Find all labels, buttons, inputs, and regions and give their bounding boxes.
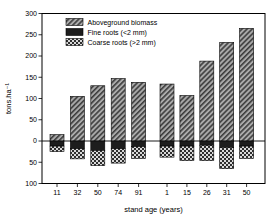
- x-tick-label: 1: [165, 189, 169, 196]
- x-axis-title: stand age (years): [124, 205, 183, 214]
- legend-label-coarse-roots: Coarse roots (>2 mm): [88, 39, 156, 47]
- legend-label-fine-roots: Fine roots (<2 mm): [88, 29, 147, 37]
- bar-segment-aboveground: [200, 61, 214, 141]
- legend-label-aboveground-biomass: Aboveground biomass: [88, 19, 158, 27]
- bar-segment-coarse-roots: [240, 146, 254, 158]
- bar-segment-fine-roots: [111, 141, 125, 149]
- bar-segment-fine-roots: [50, 141, 64, 146]
- bar-segment-coarse-roots: [50, 146, 64, 152]
- bar-segment-fine-roots: [160, 141, 174, 146]
- bar-segment-aboveground: [50, 135, 64, 141]
- y-tick-label: 50: [29, 159, 37, 166]
- bar-segment-fine-roots: [180, 141, 194, 146]
- x-tick-label: 50: [243, 189, 251, 196]
- y-tick-label: 100: [25, 95, 37, 102]
- x-tick-label: 91: [135, 189, 143, 196]
- x-tick-label: 11: [53, 189, 60, 196]
- y-tick-label: 50: [29, 116, 37, 123]
- bar-segment-coarse-roots: [160, 146, 174, 157]
- bar-segment-aboveground: [220, 42, 234, 141]
- bar-segment-fine-roots: [240, 141, 254, 146]
- bar-segment-fine-roots: [70, 141, 84, 149]
- bar-segment-fine-roots: [220, 141, 234, 147]
- bar-segment-coarse-roots: [200, 145, 214, 160]
- legend-swatch-fine-roots: [66, 29, 83, 36]
- y-tick-label: 0: [33, 137, 37, 144]
- bar-segment-aboveground: [111, 79, 125, 141]
- bar-segment-fine-roots: [132, 141, 146, 147]
- x-tick-label: 31: [223, 189, 231, 196]
- legend: Aboveground biomass Fine roots (<2 mm) C…: [66, 19, 158, 47]
- bar-segment-aboveground: [240, 28, 254, 141]
- legend-swatch-coarse-roots: [66, 39, 83, 46]
- x-tick-label: 26: [203, 189, 211, 196]
- bar-segment-aboveground: [160, 84, 174, 141]
- bar-segment-coarse-roots: [132, 147, 146, 159]
- y-tick-label: 200: [25, 52, 37, 59]
- y-tick-label: 150: [25, 74, 37, 81]
- x-tick-label: 50: [94, 189, 102, 196]
- bar-segment-fine-roots: [91, 141, 105, 150]
- y-tick-label: 300: [25, 10, 37, 17]
- bar-segment-aboveground: [132, 82, 146, 141]
- bar-segment-coarse-roots: [70, 149, 84, 159]
- y-tick-label: 100: [25, 180, 37, 187]
- bar-segment-coarse-roots: [180, 146, 194, 160]
- legend-swatch-aboveground-biomass: [66, 19, 83, 26]
- bar-segment-aboveground: [180, 96, 194, 141]
- bar-segment-coarse-roots: [91, 150, 105, 165]
- bar-segment-aboveground: [70, 96, 84, 141]
- bar-segment-fine-roots: [200, 141, 214, 145]
- bar-segment-coarse-roots: [111, 149, 125, 163]
- x-tick-label: 15: [183, 189, 191, 196]
- x-tick-label: 32: [74, 189, 82, 196]
- y-tick-label: 250: [25, 31, 37, 38]
- x-tick-label: 74: [114, 189, 122, 196]
- stacked-bar-chart: 3002502001501005005010011325074911152631…: [0, 0, 277, 221]
- chart-canvas: 3002502001501005005010011325074911152631…: [0, 0, 277, 221]
- y-axis-title: tons.ha⁻¹: [4, 82, 13, 114]
- bar-segment-coarse-roots: [220, 147, 234, 168]
- bar-segment-aboveground: [91, 86, 105, 141]
